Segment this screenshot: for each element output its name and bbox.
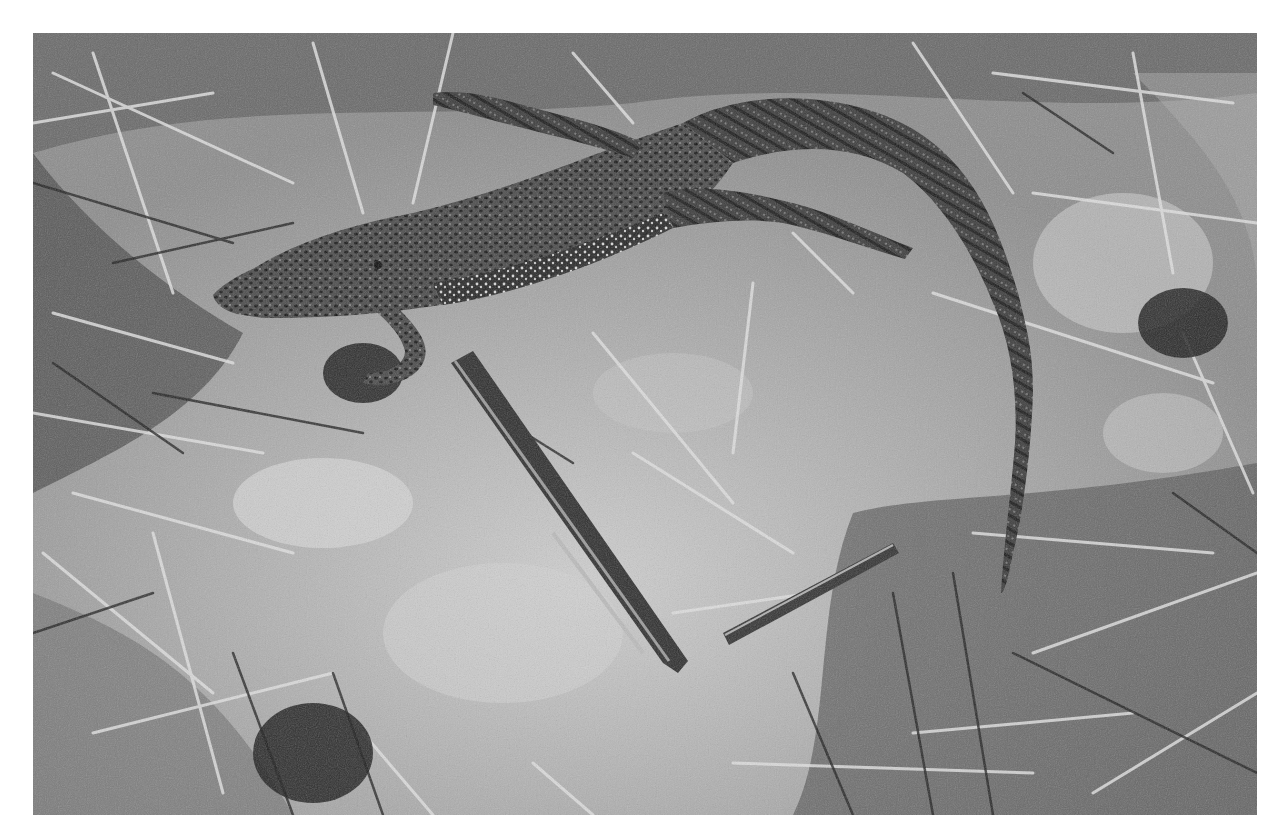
photograph [33, 33, 1257, 815]
lizard-scene [33, 33, 1257, 815]
